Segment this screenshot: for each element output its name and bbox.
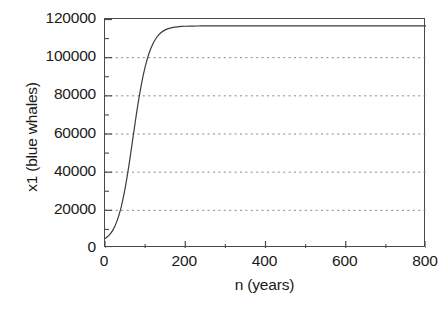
- y-tick-label: 80000: [54, 86, 96, 102]
- y-tick-label: 120000: [45, 10, 96, 26]
- y-axis-title: x1 (blue whales): [23, 22, 41, 252]
- x-tick-label: 800: [412, 252, 437, 270]
- x-tick-label: 400: [252, 252, 277, 270]
- x-tick-label: 0: [100, 252, 108, 270]
- x-axis-title: n (years): [104, 276, 425, 294]
- x-tick-label: 200: [172, 252, 197, 270]
- gridlines-group: [105, 58, 426, 211]
- y-tick-label: 20000: [54, 201, 96, 217]
- y-tick-label: 100000: [45, 48, 96, 64]
- y-major-ticks-group: [105, 20, 112, 249]
- y-tick-label: 60000: [54, 125, 96, 141]
- plot-canvas: [105, 19, 426, 248]
- x-major-ticks-group: [105, 241, 426, 248]
- data-series-line: [105, 26, 426, 239]
- x-axis-tick-labels: 0200400600800: [0, 252, 444, 274]
- x-tick-label: 600: [332, 252, 357, 270]
- y-tick-label: 40000: [54, 163, 96, 179]
- plot-area: [104, 18, 425, 247]
- chart-figure: 020000400006000080000100000120000 020040…: [0, 0, 444, 311]
